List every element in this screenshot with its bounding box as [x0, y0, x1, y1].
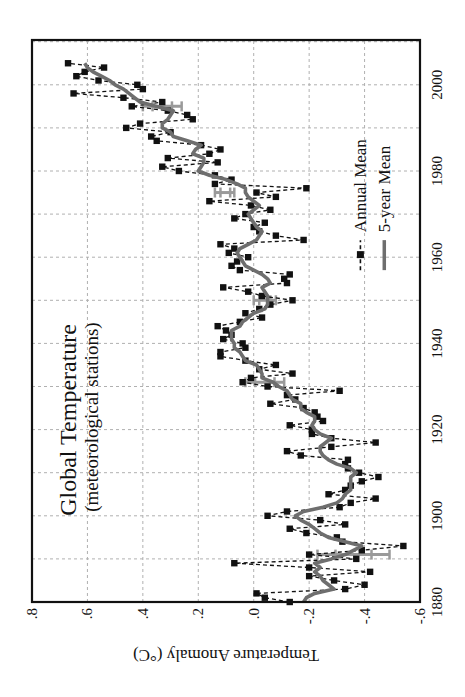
x-tick-label: 1880	[429, 587, 445, 617]
annual-mean-marker	[148, 133, 154, 139]
annual-mean-marker	[159, 99, 165, 105]
y-tick-label: .0	[246, 608, 262, 619]
annual-mean-marker	[284, 448, 290, 454]
annual-mean-marker	[95, 77, 101, 83]
y-tick-label: .8	[24, 608, 40, 619]
annual-mean-marker	[123, 125, 129, 131]
annual-mean-marker	[223, 327, 229, 333]
x-tick-label: 1940	[429, 328, 445, 358]
annual-mean-marker	[129, 103, 135, 109]
annual-mean-marker	[328, 444, 334, 450]
annual-mean-marker	[306, 573, 312, 579]
legend-five-year-label: 5-year Mean	[375, 145, 394, 232]
y-axis-title: Temperature Anomaly (°C)	[133, 646, 319, 665]
y-tick-label: -.4	[357, 608, 373, 625]
annual-mean-marker	[190, 116, 196, 122]
annual-mean-marker	[375, 474, 381, 480]
chart-title: Global Temperature	[55, 324, 81, 516]
annual-mean-marker	[262, 220, 268, 226]
annual-mean-marker	[245, 288, 251, 294]
y-tick-label: -.6	[412, 608, 428, 625]
annual-mean-marker	[289, 370, 295, 376]
annual-mean-marker	[342, 586, 348, 592]
annual-mean-marker	[237, 267, 243, 273]
annual-mean-marker	[336, 504, 342, 510]
annual-mean-marker	[320, 418, 326, 424]
annual-mean-marker	[306, 564, 312, 570]
annual-mean-marker	[70, 90, 76, 96]
annual-mean-marker	[217, 146, 223, 152]
annual-mean-marker	[306, 551, 312, 557]
annual-mean-marker	[303, 185, 309, 191]
annual-mean-marker	[298, 452, 304, 458]
annual-mean-marker	[331, 577, 337, 583]
annual-mean-marker	[101, 64, 107, 70]
plot-frame	[32, 40, 420, 602]
annual-mean-marker	[287, 526, 293, 532]
annual-mean-marker	[206, 151, 212, 157]
annual-mean-marker	[372, 439, 378, 445]
annual-mean-marker	[372, 495, 378, 501]
x-tick-label: 2000	[429, 70, 445, 100]
annual-mean-marker	[273, 194, 279, 200]
y-tick-label: .6	[79, 608, 95, 620]
annual-mean-marker	[325, 491, 331, 497]
annual-mean-marker	[400, 543, 406, 549]
y-tick-label: .4	[135, 608, 151, 620]
annual-mean-marker	[317, 517, 323, 523]
grid-lines	[32, 40, 420, 602]
x-tick-label: 1920	[429, 415, 445, 445]
annual-mean-marker	[287, 422, 293, 428]
annual-mean-marker	[281, 276, 287, 282]
annual-mean-marker	[214, 323, 220, 329]
temperature-chart: 1880190019201940196019802000 -.6-.4-.2.0…	[0, 0, 465, 697]
annual-mean-marker	[336, 388, 342, 394]
annual-mean-marker	[65, 60, 71, 66]
x-tick-label: 1980	[429, 156, 445, 186]
annual-mean-marker	[353, 556, 359, 562]
annual-mean-marker	[273, 362, 279, 368]
annual-mean-marker	[248, 375, 254, 381]
annual-mean-marker	[184, 112, 190, 118]
annual-mean-marker	[245, 254, 251, 260]
x-tick-label: 1900	[429, 501, 445, 531]
annual-mean-marker	[220, 284, 226, 290]
x-tick-label: 1960	[429, 242, 445, 272]
annual-mean-marker	[154, 138, 160, 144]
annual-mean-marker	[359, 478, 365, 484]
annual-mean-marker	[140, 86, 146, 92]
annual-mean-marker	[212, 181, 218, 187]
annual-mean-marker	[289, 297, 295, 303]
annual-mean-marker	[267, 207, 273, 213]
legend: Annual Mean 5-year Mean	[351, 139, 394, 271]
annual-mean-marker	[248, 202, 254, 208]
y-tick-label: .2	[190, 608, 206, 619]
annual-mean-marker	[273, 232, 279, 238]
chart-subtitle: (meteorological stations)	[81, 322, 103, 511]
rotated-chart-stage: 1880190019201940196019802000 -.6-.4-.2.0…	[0, 0, 465, 697]
annual-mean-marker	[228, 263, 234, 269]
annual-mean-marker	[264, 513, 270, 519]
annual-mean-marker	[159, 163, 165, 169]
annual-mean-marker	[206, 198, 212, 204]
annual-mean-marker	[217, 349, 223, 355]
annual-mean-marker	[367, 569, 373, 575]
annual-mean-marker	[73, 73, 79, 79]
annual-mean-marker	[253, 189, 259, 195]
annual-mean-marker	[231, 215, 237, 221]
annual-mean-marker	[165, 155, 171, 161]
annual-mean-marker	[239, 340, 245, 346]
annual-mean-marker	[220, 336, 226, 342]
annual-mean-marker	[137, 120, 143, 126]
annual-mean-marker	[253, 590, 259, 596]
annual-mean-marker	[134, 82, 140, 88]
annual-mean-marker	[284, 508, 290, 514]
annual-mean-marker	[214, 159, 220, 165]
annual-mean-marker	[264, 383, 270, 389]
annual-mean-marker	[348, 500, 354, 506]
annual-mean-marker	[342, 521, 348, 527]
annual-mean-marker	[303, 530, 309, 536]
annual-mean-marker	[242, 310, 248, 316]
annual-mean-marker	[345, 457, 351, 463]
y-tick-label: -.2	[301, 608, 317, 624]
